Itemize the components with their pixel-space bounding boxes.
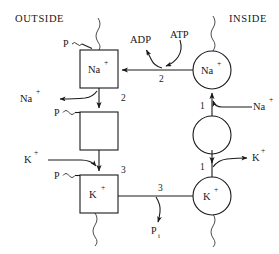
outside-empty-box-phosphate-label: P: [54, 107, 60, 118]
stoich-na-transport-top: 2: [121, 93, 126, 103]
membrane-wavy-left: [96, 18, 100, 51]
flux-label-na-efflux: Na: [20, 93, 33, 104]
outside-k-box-phosphate-label: P: [54, 170, 60, 181]
inside-k-circle[interactable]: [193, 177, 231, 215]
molecule-label-pi: P: [151, 225, 157, 236]
outside-na-box-phosphate-bond-icon: [72, 43, 82, 46]
outside-na-box-phosphate-link: [82, 44, 92, 49]
flux-label-na-influx: Na: [253, 101, 266, 112]
outside-k-box-phosphate-bond-icon: [63, 174, 75, 178]
stoich-k-transport: 3: [121, 165, 126, 175]
molecule-label-adp: ADP: [130, 34, 151, 45]
stoich-pi-release: 3: [158, 183, 163, 193]
arrow-adp-release: [147, 50, 163, 68]
outside-k-box[interactable]: [80, 175, 118, 213]
flux-label-k-influx: K: [24, 154, 32, 165]
molecule-label-atp: ATP: [170, 29, 189, 40]
pump-diagram-canvas: OUTSIDE INSIDE Na + P P K + P Na +: [0, 0, 279, 254]
arrow-k-influx: [48, 160, 96, 166]
membrane-wavy-right-bottom: [211, 214, 215, 247]
flux-label-na-efflux-charge: +: [36, 87, 40, 96]
compartment-label-outside: OUTSIDE: [15, 13, 64, 24]
arrow-na-influx: [213, 101, 252, 107]
arrow-atp-binding: [166, 40, 181, 66]
flux-label-k-efflux-charge: +: [261, 146, 265, 155]
arrow-k-efflux: [213, 158, 247, 167]
flux-label-na-influx-charge: +: [269, 95, 273, 104]
outside-k-box-label: K: [89, 189, 97, 200]
compartment-label-inside: INSIDE: [229, 13, 267, 24]
stoich-k-release: 1: [200, 162, 205, 172]
outside-empty-box-phosphate-bond-icon: [63, 111, 75, 115]
stoich-na-uptake: 1: [200, 101, 205, 111]
flux-label-k-influx-charge: +: [34, 148, 38, 157]
membrane-wavy-right-top: [211, 16, 215, 51]
flux-label-k-efflux: K: [252, 152, 260, 163]
stoich-atp-hydrolysis: 2: [159, 74, 164, 84]
inside-k-circle-charge: +: [214, 185, 218, 194]
outside-k-box-charge: +: [101, 183, 105, 192]
arrow-pi-release: [156, 197, 160, 222]
inside-na-circle-charge: +: [217, 59, 221, 68]
diagram-svg: OUTSIDE INSIDE Na + P P K + P Na +: [0, 0, 279, 254]
molecule-label-pi-subscript: i: [158, 232, 160, 240]
outside-na-box-phosphate-label: P: [63, 38, 69, 49]
inside-na-circle-label: Na: [201, 65, 214, 76]
arrow-na-efflux: [60, 91, 97, 99]
membrane-wavy-left-bottom: [93, 213, 97, 246]
inside-empty-circle[interactable]: [193, 116, 231, 154]
outside-na-box-charge: +: [104, 58, 108, 67]
outside-empty-box[interactable]: [80, 112, 118, 150]
inside-k-circle-label: K: [203, 191, 211, 202]
outside-na-box-label: Na: [88, 64, 101, 75]
